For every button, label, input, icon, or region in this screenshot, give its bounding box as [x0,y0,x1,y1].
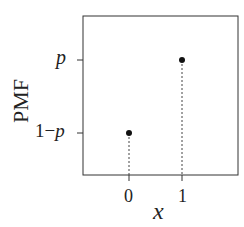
ytick-label-p: p [56,46,66,69]
ytick-label-1mp: 1−p [35,120,65,142]
ytick-label-1mp-num: 1− [35,120,55,141]
plot-frame [83,16,238,175]
x-axis-label: x [153,198,164,225]
point-0 [126,130,132,136]
y-axis-label: PMF [8,79,34,123]
ytick-label-1mp-p: p [55,120,65,141]
xtick-label-1: 1 [178,186,187,207]
xtick-label-0: 0 [124,186,133,207]
point-1 [179,57,185,63]
